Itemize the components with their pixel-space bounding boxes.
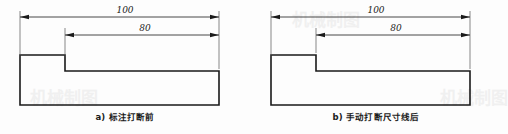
part-outline-a [20, 55, 219, 105]
extension-lines-a [20, 11, 219, 69]
dimension-value-80-b: 80 [390, 23, 402, 33]
dimension-100-b: 100 [271, 5, 470, 17]
dimension-value-100-a: 100 [116, 5, 133, 15]
dimension-80-a: 80 [65, 23, 219, 35]
dimension-value-80-a: 80 [139, 23, 151, 33]
dimension-100-a: 100 [20, 5, 219, 17]
dimension-value-100-b: 100 [367, 5, 384, 15]
panel-b-caption: b) 手动打断尺寸线后 [251, 112, 501, 123]
drawing-panel-b: 100 80 b) 手动打断尺寸线后 [251, 0, 501, 134]
drawing-panel-a: 100 80 a) 标注打断前 [0, 0, 250, 134]
panel-b-drawing: 100 80 [251, 0, 501, 112]
panel-a-caption: a) 标注打断前 [0, 112, 250, 123]
panel-a-drawing: 100 80 [0, 0, 250, 112]
dimension-80-b: 80 [316, 23, 470, 35]
part-outline-b [271, 55, 470, 105]
extension-lines-b [271, 11, 470, 69]
